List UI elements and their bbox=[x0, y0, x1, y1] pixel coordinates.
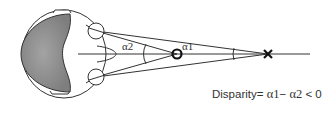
brain-shape bbox=[21, 14, 70, 92]
disparity-formula: Disparity= α1− α2 < 0 bbox=[212, 87, 322, 102]
formula-alpha1: α1 bbox=[267, 87, 280, 101]
left-eye bbox=[88, 23, 104, 39]
ear-top bbox=[53, 10, 71, 13]
formula-minus: − bbox=[279, 88, 289, 100]
formula-relation: < 0 bbox=[302, 88, 322, 100]
formula-alpha2: α2 bbox=[289, 87, 302, 101]
alpha1-label: α1 bbox=[182, 40, 193, 52]
alpha2-label: α2 bbox=[122, 40, 133, 52]
right-eye bbox=[88, 69, 104, 85]
formula-prefix: Disparity= bbox=[212, 88, 267, 100]
